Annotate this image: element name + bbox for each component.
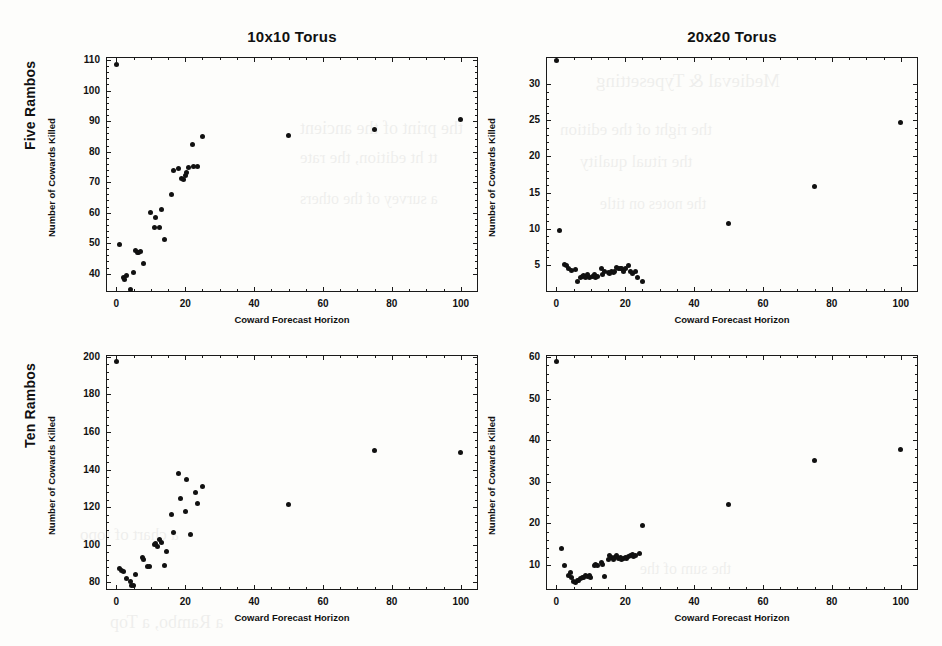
axis-tick: [746, 355, 747, 358]
axis-tick: [729, 355, 730, 358]
x-tick-label: 60: [743, 596, 783, 607]
axis-tick: [915, 457, 918, 458]
axis-tick: [556, 585, 557, 590]
y-axis-label-ten-rambos-20x20-torus: Number of Cowards Killed: [486, 416, 497, 535]
axis-tick: [915, 474, 918, 475]
axis-tick: [797, 355, 798, 358]
axis-tick: [915, 465, 918, 466]
axis-tick: [546, 474, 549, 475]
axis-tick: [915, 515, 918, 516]
axis-tick: [546, 523, 551, 524]
axis-tick: [546, 557, 549, 558]
x-tick-label: 80: [812, 596, 852, 607]
axis-tick: [832, 585, 833, 590]
axis-tick: [546, 415, 549, 416]
axis-tick: [677, 587, 678, 590]
axis-tick: [780, 587, 781, 590]
x-tick-label: 40: [674, 596, 714, 607]
axis-tick: [608, 355, 609, 358]
axis-tick: [625, 585, 626, 590]
x-tick-label: 0: [536, 596, 576, 607]
axis-tick: [546, 540, 549, 541]
axis-tick: [546, 515, 549, 516]
axis-tick: [884, 355, 885, 358]
axis-tick: [913, 523, 918, 524]
y-tick-label: 10: [504, 559, 540, 570]
axis-tick: [546, 457, 549, 458]
axis-tick: [546, 440, 551, 441]
axis-tick: [849, 355, 850, 358]
x-tick-label: 20: [605, 596, 645, 607]
axis-tick: [815, 355, 816, 358]
axis-tick: [546, 390, 549, 391]
axis-tick: [546, 482, 551, 483]
axis-tick: [642, 355, 643, 358]
axis-tick: [915, 424, 918, 425]
axis-tick: [546, 399, 551, 400]
axis-tick: [546, 490, 549, 491]
axis-tick: [625, 355, 626, 360]
axis-tick: [866, 587, 867, 590]
axis-tick: [546, 407, 549, 408]
axis-tick: [763, 355, 764, 360]
axis-tick: [915, 407, 918, 408]
axis-tick: [884, 587, 885, 590]
data-point: [637, 551, 642, 556]
axis-tick: [915, 432, 918, 433]
axis-tick: [546, 498, 549, 499]
axis-tick: [915, 390, 918, 391]
axis-tick: [711, 355, 712, 358]
axis-tick: [574, 355, 575, 358]
axis-tick: [660, 587, 661, 590]
axis-tick: [915, 548, 918, 549]
axis-tick: [546, 357, 551, 358]
axis-tick: [797, 587, 798, 590]
y-tick-label: 20: [504, 517, 540, 528]
axis-tick: [915, 449, 918, 450]
axis-tick: [913, 357, 918, 358]
axis-tick: [849, 587, 850, 590]
axis-tick: [915, 490, 918, 491]
axis-tick: [546, 507, 549, 508]
axis-tick: [815, 587, 816, 590]
y-tick-label: 60: [504, 351, 540, 362]
y-tick-label: 50: [504, 393, 540, 404]
axis-tick: [780, 355, 781, 358]
y-tick-label: 30: [504, 476, 540, 487]
axis-tick: [642, 587, 643, 590]
axis-tick: [546, 449, 549, 450]
axis-tick: [546, 365, 549, 366]
axis-tick: [546, 382, 549, 383]
axis-tick: [546, 548, 549, 549]
axis-tick: [546, 424, 549, 425]
axis-tick: [915, 374, 918, 375]
axis-tick: [915, 540, 918, 541]
axis-tick: [591, 355, 592, 358]
axis-tick: [746, 587, 747, 590]
axis-tick: [901, 585, 902, 590]
axis-tick: [546, 532, 549, 533]
data-point: [568, 570, 573, 575]
axis-tick: [915, 507, 918, 508]
axis-tick: [832, 355, 833, 360]
chart-panel-ten-rambos-20x20-torus: 020406080100102030405060Coward Forecast …: [0, 0, 942, 646]
axis-tick: [608, 587, 609, 590]
axis-tick: [729, 587, 730, 590]
axis-tick: [546, 565, 551, 566]
x-axis-label-ten-rambos-20x20-torus: Coward Forecast Horizon: [546, 612, 918, 623]
axis-tick: [915, 365, 918, 366]
axis-tick: [913, 565, 918, 566]
axis-tick: [711, 587, 712, 590]
axis-tick: [913, 399, 918, 400]
axis-tick: [546, 432, 549, 433]
axis-tick: [591, 587, 592, 590]
scatter-plot-figure: Medieval & Typesettingthe print of the a…: [0, 0, 942, 646]
axis-tick: [763, 585, 764, 590]
axis-tick: [915, 532, 918, 533]
axis-tick: [660, 355, 661, 358]
data-point: [559, 546, 564, 551]
axis-tick: [915, 382, 918, 383]
plot-frame-ten-rambos-20x20-torus: [546, 355, 918, 590]
x-tick-label: 100: [881, 596, 921, 607]
axis-tick: [694, 355, 695, 360]
